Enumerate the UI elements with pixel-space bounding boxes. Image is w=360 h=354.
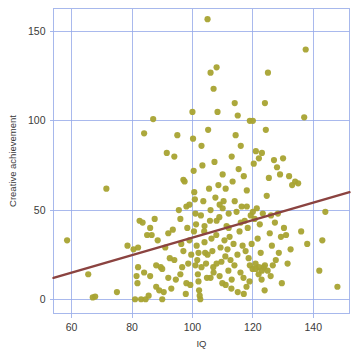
scatter-point [133,273,139,279]
scatter-point [298,228,304,234]
scatter-point [229,277,235,283]
scatter-point [174,132,180,138]
scatter-point [284,260,290,266]
scatter-point [259,268,265,274]
scatter-point [168,285,174,291]
scatter-point [274,164,280,170]
scatter-point [199,162,205,168]
scatter-point [233,209,239,215]
scatter-point [195,278,201,284]
scatter-point [249,241,255,247]
scatter-point [214,260,220,266]
scatter-point [152,216,158,222]
scatter-point [192,262,198,268]
scatter-point [141,269,147,275]
scatter-point [241,173,247,179]
scatter-point [150,116,156,122]
y-tick-label: 50 [34,204,46,216]
scatter-point [250,118,256,124]
scatter-point [259,277,265,283]
scatter-point [184,225,190,231]
scatter-point [222,253,228,259]
scatter-point [64,237,70,243]
scatter-point [159,266,165,272]
scatter-point [235,112,241,118]
x-axis-title: IQ [196,338,206,349]
scatter-point [170,227,176,233]
scatter-point [246,278,252,284]
x-tick-label: 120 [244,321,262,333]
scatter-point [316,268,322,274]
scatter-point [180,248,186,254]
scatter-point [198,264,204,270]
scatter-point [214,218,220,224]
scatter-point [221,237,227,243]
scatter-point [188,252,194,258]
scatter-point [191,168,197,174]
scatter-point [220,198,226,204]
scatter-point [247,262,253,268]
x-tick-label: 60 [66,321,78,333]
scatter-point [268,273,274,279]
scatter-point [198,143,204,149]
scatter-point [230,178,236,184]
scatter-point [159,296,165,302]
scatter-point [155,237,161,243]
axis-ticks-group: 6080100120140050100150 [28,25,322,332]
y-tick-label: 0 [40,293,46,305]
scatter-point [207,218,213,224]
scatter-point [220,171,226,177]
scatter-point [192,196,198,202]
scatter-point [207,275,213,281]
scatter-point [225,268,231,274]
scatter-point [191,189,197,195]
scatter-point [281,225,287,231]
scatter-point [262,100,268,106]
scatter-point [243,284,249,290]
scatter-point [215,182,221,188]
scatter-point [269,243,275,249]
scatter-point [161,289,167,295]
scatter-point [204,16,210,22]
scatter-points-group [64,16,341,302]
scatter-point [277,171,283,177]
scatter-point [134,280,140,286]
scatter-point [235,289,241,295]
scatter-point [228,285,234,291]
scatter-point [246,255,252,261]
scatter-point [210,86,216,92]
scatter-point [195,271,201,277]
scatter-point [140,219,146,225]
scatter-point [185,260,191,266]
scatter-point [171,153,177,159]
scatter-point [211,159,217,165]
scatter-point [256,155,262,161]
x-tick-label: 140 [304,321,322,333]
scatter-point [135,264,141,270]
scatter-point [114,289,120,295]
x-tick-label: 100 [184,321,202,333]
scatter-point [283,232,289,238]
scatter-point [288,246,294,252]
scatter-point [236,228,242,234]
chart-canvas: 6080100120140050100150 IQ Creative achie… [0,0,360,354]
scatter-point [280,155,286,161]
scatter-point [207,70,213,76]
scatter-point [238,143,244,149]
scatter-point [244,203,250,209]
scatter-point [164,150,170,156]
x-tick-label: 80 [126,321,138,333]
scatter-point [286,173,292,179]
scatter-point [214,109,220,115]
scatter-point [85,271,91,277]
scatter-point [226,211,232,217]
scatter-point [301,114,307,120]
scatter-point [271,157,277,163]
scatter-point [210,269,216,275]
scatter-plot-figure: 6080100120140050100150 IQ Creative achie… [0,0,360,354]
scatter-point [124,243,130,249]
scatter-point [189,109,195,115]
scatter-point [255,235,261,241]
scatter-point [135,244,141,250]
scatter-point [303,46,309,52]
